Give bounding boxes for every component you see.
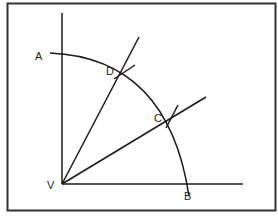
label-v: V [47,179,55,191]
label-c: C [154,112,162,124]
label-a: A [35,50,43,62]
label-b: B [184,190,191,202]
geometry-diagram: A D C V B [0,0,278,219]
tick-mark-c [166,105,178,128]
ray-vd [62,37,139,184]
label-d: D [106,65,114,77]
tick-mark-d [114,65,135,79]
